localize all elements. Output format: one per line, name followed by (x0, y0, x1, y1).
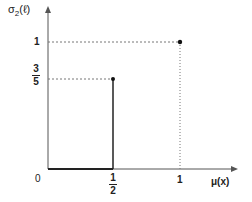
chart-canvas (0, 0, 252, 202)
point-half-3-5 (111, 77, 115, 81)
y-tick-1: 1 (34, 36, 40, 47)
y-tick-3-5: 3 5 (30, 64, 42, 87)
x-tick-half: 1 2 (107, 173, 119, 196)
x-axis-label: μ(x) (211, 176, 229, 187)
point-1-1 (178, 40, 182, 44)
y-axis-arrow-icon (45, 6, 51, 13)
x-tick-1: 1 (177, 174, 183, 185)
origin-label: 0 (35, 173, 41, 184)
y-axis-label: σ2(ℓ) (8, 3, 30, 18)
x-axis-arrow-icon (231, 166, 238, 172)
